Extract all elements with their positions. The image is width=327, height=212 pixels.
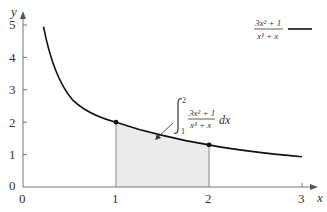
legend: 3x² + 1 x³ + x — [254, 18, 312, 41]
annotation-arrow-line — [158, 123, 173, 137]
legend-denominator: x³ + x — [256, 31, 278, 41]
legend-numerator: 3x² + 1 — [254, 18, 281, 28]
integral-lower-limit: 1 — [181, 127, 185, 136]
x-tick-label-2: 2 — [205, 191, 212, 206]
integral-upper-limit: 2 — [182, 96, 186, 105]
integral-annotation: 2 1 3x² + 1 x³ + x dx — [174, 96, 231, 136]
integral-denominator: x³ + x — [189, 120, 211, 130]
y-ticks — [23, 25, 27, 155]
x-tick-label-1: 1 — [112, 191, 119, 206]
x-axis-label: x — [316, 190, 323, 205]
x-tick-label-3: 3 — [298, 191, 305, 206]
x-tick-label-0: 0 — [19, 191, 26, 206]
shaded-area — [116, 122, 209, 187]
y-tick-label-5: 5 — [9, 17, 16, 32]
y-tick-label-1: 1 — [9, 147, 16, 162]
y-axis-arrow-icon — [20, 11, 26, 19]
integral-numerator: 3x² + 1 — [188, 108, 215, 118]
y-tick-label-3: 3 — [9, 82, 16, 97]
chart: 5 4 3 2 1 0 y 0 1 2 3 x 2 1 3x² + 1 x³ +… — [0, 0, 327, 212]
y-axis-label: y — [9, 4, 17, 19]
point-x1 — [114, 120, 119, 125]
integral-differential: dx — [219, 113, 231, 127]
y-tick-label-2: 2 — [9, 115, 16, 130]
point-x2 — [207, 143, 212, 148]
y-tick-label-4: 4 — [9, 50, 16, 65]
y-tick-label-0: 0 — [9, 178, 16, 193]
function-curve — [44, 27, 303, 157]
